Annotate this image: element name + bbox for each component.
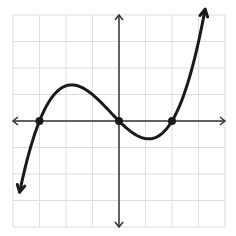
curve-arrow-icons [17,9,207,192]
function-curve [20,9,206,192]
root-point [168,117,176,125]
root-point [115,117,123,125]
root-point [36,117,44,125]
cubic-function-graph [0,0,236,236]
